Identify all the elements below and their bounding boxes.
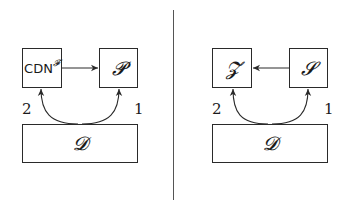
- arc-d-to-p: [82, 89, 119, 124]
- arc-d-to-z: [233, 89, 268, 124]
- diagram-edges: [0, 0, 348, 209]
- arc-d-to-s: [272, 89, 308, 124]
- arc-d-to-cdn: [41, 89, 78, 124]
